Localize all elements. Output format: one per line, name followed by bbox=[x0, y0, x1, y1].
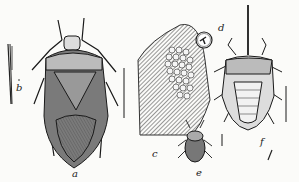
illustration-plate: b a c d e f bbox=[0, 0, 299, 182]
single-egg-d bbox=[196, 32, 212, 48]
label-d: d bbox=[218, 22, 224, 33]
nymph-f bbox=[214, 5, 286, 130]
label-e: e bbox=[196, 167, 202, 178]
label-c: c bbox=[152, 148, 158, 159]
beak-detail-b bbox=[8, 44, 20, 104]
label-a: a bbox=[72, 168, 78, 179]
adult-bug-a bbox=[32, 18, 124, 168]
label-b: b bbox=[16, 82, 22, 93]
engraving-drawing bbox=[0, 0, 299, 182]
label-f: f bbox=[260, 136, 264, 147]
